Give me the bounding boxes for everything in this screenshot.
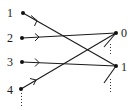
node-right-0 [114, 31, 118, 35]
stub-into-1 [104, 66, 116, 83]
node-right-1 [114, 64, 118, 68]
label-left-1: 1 [7, 6, 13, 20]
label-left-3: 3 [7, 55, 13, 69]
label-right-0: 0 [121, 26, 127, 40]
node-left-4 [19, 87, 23, 91]
edge-2-to-0 [22, 33, 116, 38]
node-left-2 [20, 36, 24, 40]
label-left-4: 4 [7, 83, 13, 97]
node-left-1 [21, 11, 25, 15]
label-right-1: 1 [121, 60, 127, 74]
graph-diagram: 1 2 3 4 0 1 [0, 0, 133, 110]
label-left-2: 2 [7, 31, 13, 45]
node-left-3 [20, 60, 24, 64]
